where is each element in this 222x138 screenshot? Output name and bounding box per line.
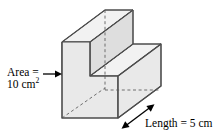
geometry-figure: Area = 10 cm2 Length = 5 cm	[0, 0, 222, 138]
area-label-line-2: 10 cm2	[7, 78, 39, 90]
area-exponent: 2	[35, 76, 39, 85]
area-arrow	[43, 71, 62, 78]
area-value: 10 cm	[7, 78, 35, 90]
length-label: Length = 5 cm	[145, 117, 212, 129]
area-label: Area = 10 cm2	[7, 66, 39, 90]
